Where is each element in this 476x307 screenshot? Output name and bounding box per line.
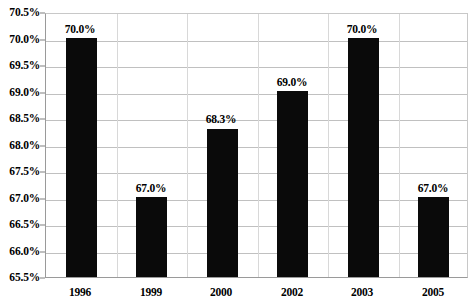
bar	[348, 38, 379, 277]
gridline	[46, 147, 467, 148]
y-axis-tick-label: 69.5%	[0, 60, 40, 72]
gridline	[46, 41, 467, 42]
y-axis-tick-label: 69.0%	[0, 87, 40, 99]
y-axis-tick-mark	[40, 13, 45, 14]
y-axis-tick-mark	[40, 39, 45, 40]
bar-value-label: 69.0%	[257, 77, 327, 89]
y-axis-tick-mark	[40, 251, 45, 252]
y-axis: 70.5%70.0%69.5%69.0%68.5%68.0%67.5%67.0%…	[0, 0, 40, 307]
gridline	[46, 94, 467, 95]
x-axis-category-label: 2000	[186, 287, 256, 299]
category-separator	[399, 14, 400, 277]
x-axis-category-label: 2002	[257, 287, 327, 299]
category-separator	[258, 14, 259, 277]
y-axis-tick-mark	[40, 225, 45, 226]
gridline	[46, 200, 467, 201]
y-axis-tick-mark	[40, 145, 45, 146]
y-axis-tick-label: 68.0%	[0, 140, 40, 152]
bar	[418, 197, 449, 277]
category-separator	[328, 14, 329, 277]
category-separator	[187, 14, 188, 277]
bar-value-label: 67.0%	[398, 183, 468, 195]
x-axis-category-label: 2005	[398, 287, 468, 299]
plot-area	[45, 13, 468, 278]
gridline	[46, 226, 467, 227]
bar	[277, 91, 308, 277]
x-axis-category-label: 1996	[45, 287, 115, 299]
gridline	[46, 120, 467, 121]
y-axis-tick-label: 68.5%	[0, 113, 40, 125]
x-axis-category-label: 2003	[327, 287, 397, 299]
y-axis-tick-label: 67.0%	[0, 193, 40, 205]
x-axis-category-label: 1999	[116, 287, 186, 299]
y-axis-tick-label: 67.5%	[0, 166, 40, 178]
y-axis-tick-mark	[40, 92, 45, 93]
bar	[66, 38, 97, 277]
bar-value-label: 70.0%	[45, 24, 115, 36]
y-axis-tick-mark	[40, 198, 45, 199]
gridline	[46, 253, 467, 254]
bar	[136, 197, 167, 277]
y-axis-tick-label: 70.5%	[0, 7, 40, 19]
y-axis-tick-label: 66.5%	[0, 219, 40, 231]
category-separator	[117, 14, 118, 277]
y-axis-tick-label: 65.5%	[0, 272, 40, 284]
y-axis-tick-label: 66.0%	[0, 246, 40, 258]
bar-value-label: 70.0%	[327, 24, 397, 36]
y-axis-tick-label: 70.0%	[0, 34, 40, 46]
y-axis-tick-mark	[40, 278, 45, 279]
gridline	[46, 67, 467, 68]
bar	[207, 129, 238, 277]
y-axis-tick-mark	[40, 66, 45, 67]
bar-chart: 70.5%70.0%69.5%69.0%68.5%68.0%67.5%67.0%…	[0, 0, 476, 307]
bar-value-label: 67.0%	[116, 183, 186, 195]
gridline	[46, 173, 467, 174]
bar-value-label: 68.3%	[186, 114, 256, 126]
y-axis-tick-mark	[40, 119, 45, 120]
y-axis-tick-mark	[40, 172, 45, 173]
